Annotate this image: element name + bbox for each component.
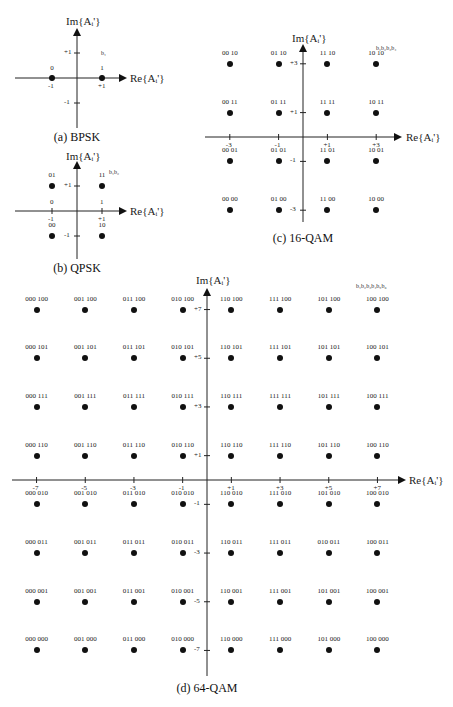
point-label: 111 000 — [269, 636, 291, 643]
qam64-y-tick-label: -1 — [194, 500, 200, 507]
constellation-point — [228, 453, 234, 459]
constellation-point — [374, 453, 380, 459]
point-label: 010 111 — [172, 393, 194, 400]
point-label: 010 010 — [171, 490, 194, 497]
point-label: 101 111 — [318, 393, 340, 400]
constellation-point — [131, 550, 137, 556]
point-label: 00 — [49, 222, 56, 229]
point-label: 1 — [100, 65, 104, 72]
constellation-point — [326, 647, 332, 653]
point-label: 011 101 — [123, 344, 146, 351]
point-label: 110 110 — [220, 442, 242, 449]
constellation-point — [180, 307, 186, 313]
constellation-point — [373, 110, 379, 116]
point-label: 010 101 — [171, 344, 194, 351]
point-label: 111 100 — [269, 296, 291, 303]
qam16-bits-label: b₁b₂b₃b₄ — [376, 45, 396, 51]
constellation-point — [49, 233, 55, 239]
point-label: 01 01 — [271, 147, 287, 154]
point-label: 000 011 — [25, 539, 48, 546]
constellation-point — [374, 550, 380, 556]
qam16-y-tick-label: +3 — [290, 60, 297, 67]
constellation-point — [131, 404, 137, 410]
constellation-point — [228, 307, 234, 313]
point-label: 000 111 — [25, 393, 47, 400]
qpsk-im-axis-label: Im{Aᵢ'} — [66, 151, 101, 162]
point-label: 010 000 — [171, 636, 194, 643]
constellation-point — [82, 404, 88, 410]
point-label: 111 111 — [269, 393, 291, 400]
qam64-y-tick-label: +7 — [194, 306, 201, 313]
qpsk-y-tick-label: +1 — [64, 182, 71, 189]
constellation-point — [131, 501, 137, 507]
bpsk-x-tick-label: +1 — [98, 83, 105, 90]
point-label: 110 100 — [220, 296, 243, 303]
constellation-point — [277, 550, 283, 556]
constellation-point — [82, 453, 88, 459]
constellation-point — [131, 307, 137, 313]
qam64-caption: (d) 64-QAM — [177, 682, 238, 694]
point-label: 100 111 — [366, 393, 388, 400]
point-label: 110 011 — [220, 539, 242, 546]
point-label: 001 011 — [74, 539, 97, 546]
qam64-re-axis-label: Re{Aᵢ'} — [409, 475, 444, 486]
constellation-point — [82, 599, 88, 605]
point-label: 100 011 — [366, 539, 389, 546]
constellation-point — [131, 599, 137, 605]
point-label: 011 010 — [123, 490, 146, 497]
constellation-point — [180, 404, 186, 410]
point-label: 01 — [49, 172, 56, 179]
point-label: 010 001 — [171, 588, 194, 595]
constellation-point — [277, 599, 283, 605]
point-label: 011 110 — [123, 442, 145, 449]
constellation-point — [180, 453, 186, 459]
qam16-re-axis-label: Re{Aᵢ'} — [406, 132, 441, 143]
qam64-bits-label: b₁b₂b₃b₄b₅b₆ — [356, 283, 387, 289]
constellation-point — [34, 307, 40, 313]
point-label: 100 001 — [366, 588, 389, 595]
bpsk-bits-label: b₁ — [101, 50, 106, 56]
point-label: 101 100 — [317, 296, 340, 303]
constellation-point — [131, 355, 137, 361]
point-label: 01 00 — [271, 196, 287, 203]
constellation-point — [324, 110, 330, 116]
qam16-y-tick-label: -1 — [290, 157, 296, 164]
qam16-im-axis-label: Im{Aᵢ'} — [292, 33, 327, 44]
point-label: 100 110 — [366, 442, 389, 449]
constellation-point — [227, 207, 233, 213]
point-label: 11 00 — [320, 196, 336, 203]
point-label: 000 000 — [25, 636, 48, 643]
constellation-point — [277, 355, 283, 361]
point-label: 101 001 — [317, 588, 340, 595]
point-label: 10 00 — [368, 196, 384, 203]
constellation-point — [326, 453, 332, 459]
point-label: 11 — [99, 172, 106, 179]
point-label: 10 01 — [368, 147, 384, 154]
point-label: 001 010 — [74, 490, 97, 497]
point-label: 11 01 — [320, 147, 336, 154]
constellation-point — [34, 501, 40, 507]
constellation-point — [277, 501, 283, 507]
point-label: 110 111 — [220, 393, 242, 400]
qpsk-x-tick-bit: 1 — [100, 199, 104, 206]
constellation-point — [228, 550, 234, 556]
point-label: 11 11 — [320, 99, 335, 106]
constellation-point — [374, 307, 380, 313]
point-label: 110 001 — [220, 588, 243, 595]
point-label: 10 11 — [368, 99, 384, 106]
qpsk-caption: (b) QPSK — [53, 262, 101, 274]
qam64-y-tick-label: -3 — [194, 549, 200, 556]
constellation-point — [131, 453, 137, 459]
constellation-point — [276, 61, 282, 67]
constellation-point — [228, 501, 234, 507]
qam64-y-tick-label: +5 — [194, 354, 201, 361]
constellation-point — [228, 355, 234, 361]
point-label: 111 011 — [269, 539, 291, 546]
point-label: 110 000 — [220, 636, 243, 643]
constellation-point — [374, 599, 380, 605]
qam64-y-tick-label: -7 — [194, 646, 200, 653]
point-label: 011 000 — [123, 636, 146, 643]
point-label: 00 10 — [222, 50, 238, 57]
constellation-point — [227, 158, 233, 164]
constellation-point — [99, 183, 105, 189]
